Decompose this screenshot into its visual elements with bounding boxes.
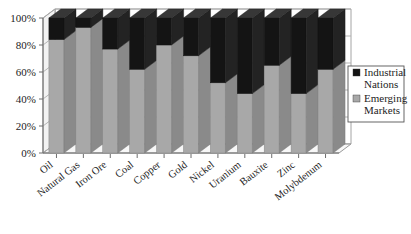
bar-side-emerging-markets (145, 60, 157, 153)
bar-segment-emerging-markets (157, 45, 172, 153)
y-axis-tick-label: 100% (10, 12, 36, 24)
bar-side-industrial-nations (306, 9, 318, 94)
bar-column (237, 9, 264, 153)
bar-column (318, 9, 345, 153)
bar-side-emerging-markets (279, 56, 291, 153)
bar-side-emerging-markets (199, 47, 211, 153)
legend-swatch (353, 69, 360, 76)
bar-column (183, 9, 210, 153)
bar-segment-industrial-nations (157, 18, 172, 45)
bar-segment-emerging-markets (130, 69, 145, 153)
bar-segment-industrial-nations (183, 18, 198, 56)
x-axis-category-label: Molybdenum (272, 159, 323, 203)
bar-segment-emerging-markets (103, 49, 118, 153)
bar-column (130, 9, 157, 153)
bar-side-industrial-nations (252, 9, 264, 94)
chart-container: 0%20%40%60%80%100%OilNatural GasIron Ore… (0, 0, 411, 234)
bar-column (210, 9, 237, 153)
bar-segment-industrial-nations (103, 18, 118, 49)
bar-side-emerging-markets (118, 40, 130, 153)
bar-segment-industrial-nations (264, 18, 279, 65)
bar-column (103, 9, 130, 153)
x-axis-category-label: Copper (131, 159, 163, 187)
bar-column (76, 9, 103, 153)
x-axis-category-label: Iron Ore (73, 159, 108, 190)
y-axis-tick-label: 0% (21, 147, 36, 159)
bar-segment-emerging-markets (264, 65, 279, 153)
bar-segment-emerging-markets (76, 27, 91, 153)
x-axis-labels: OilNatural GasIron OreCoalCopperGoldNick… (35, 154, 325, 202)
bar-column (49, 9, 76, 153)
bar-side-industrial-nations (145, 9, 157, 69)
bar-segment-emerging-markets (318, 69, 333, 153)
bar-column (264, 9, 291, 153)
bar-segment-industrial-nations (76, 18, 91, 27)
bar-segment-industrial-nations (291, 18, 306, 94)
chart-legend: IndustrialNationsEmergingMarkets (348, 66, 408, 122)
x-axis-category-label: Gold (166, 158, 190, 180)
bar-segment-industrial-nations (318, 18, 333, 69)
legend-label: Emerging (364, 92, 408, 104)
bar-column (291, 9, 318, 153)
bar-side-emerging-markets (252, 85, 264, 153)
x-axis-category-label: Bauxite (237, 159, 270, 188)
bar-side-emerging-markets (333, 60, 345, 153)
y-axis-tick-label: 60% (16, 66, 36, 78)
bar-segment-industrial-nations (49, 18, 64, 40)
bar-side-industrial-nations (279, 9, 291, 65)
y-axis-tick-label: 80% (16, 39, 36, 51)
legend-label: Nations (364, 78, 398, 90)
bar-side-emerging-markets (225, 74, 237, 153)
legend-swatch (353, 95, 360, 102)
legend-label: Markets (364, 104, 400, 116)
bar-segment-emerging-markets (237, 94, 252, 153)
stacked-bar-chart: 0%20%40%60%80%100%OilNatural GasIron Ore… (0, 0, 411, 234)
bar-segment-industrial-nations (237, 18, 252, 94)
bar-segment-industrial-nations (210, 18, 225, 83)
bar-side-emerging-markets (91, 18, 103, 153)
bar-segment-emerging-markets (183, 56, 198, 153)
legend-label: Industrial (364, 66, 406, 78)
bar-side-emerging-markets (172, 36, 184, 153)
y-axis-tick-label: 20% (16, 120, 36, 132)
bars-group (49, 9, 345, 153)
bar-side-industrial-nations (333, 9, 345, 69)
x-axis-category-label: Oil (37, 159, 54, 176)
bar-side-industrial-nations (225, 9, 237, 83)
bar-side-emerging-markets (64, 31, 76, 153)
bar-column (157, 9, 184, 153)
y-axis-tick-label: 40% (16, 93, 36, 105)
bar-segment-emerging-markets (291, 94, 306, 153)
bar-segment-emerging-markets (49, 40, 64, 153)
bar-segment-emerging-markets (210, 83, 225, 153)
bar-segment-industrial-nations (130, 18, 145, 69)
bar-side-emerging-markets (306, 85, 318, 153)
